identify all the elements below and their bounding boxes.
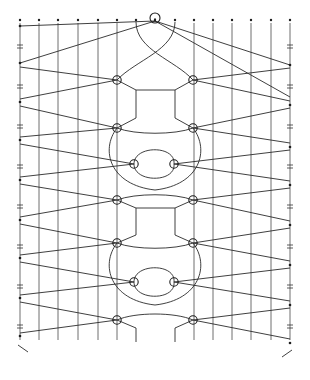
diagonal-thread bbox=[193, 228, 290, 243]
diagonal-thread bbox=[20, 243, 117, 255]
left-edge-pin bbox=[19, 139, 22, 142]
diagonal-thread bbox=[20, 106, 117, 128]
top-pin bbox=[19, 19, 21, 21]
braid-thread bbox=[117, 243, 193, 248]
diagonal-thread bbox=[20, 224, 117, 243]
top-pin bbox=[38, 19, 40, 21]
lace-pattern-diagram bbox=[0, 0, 310, 380]
left-edge-pin bbox=[19, 179, 22, 182]
top-pin bbox=[57, 19, 59, 21]
diagonal-thread bbox=[193, 308, 290, 320]
diagonal-thread bbox=[20, 320, 117, 333]
top-pin bbox=[77, 19, 79, 21]
braid-thread bbox=[117, 314, 193, 320]
top-pin bbox=[97, 19, 99, 21]
right-edge-pin bbox=[289, 342, 292, 345]
left-edge-pin bbox=[19, 297, 22, 300]
top-pin bbox=[135, 19, 137, 21]
top-pin bbox=[231, 19, 233, 21]
diagonal-thread bbox=[193, 320, 290, 339]
braid-thread bbox=[175, 200, 193, 243]
top-pin bbox=[116, 19, 118, 21]
top-pin bbox=[174, 19, 176, 21]
top-pin bbox=[289, 19, 291, 21]
pin-nodes bbox=[113, 13, 197, 324]
braid-thread bbox=[109, 243, 201, 305]
diagonal-thread bbox=[193, 188, 290, 200]
top-pin bbox=[270, 19, 272, 21]
right-edge-pin bbox=[289, 184, 292, 187]
warp-threads bbox=[17, 23, 293, 340]
diagonal-thread bbox=[20, 184, 117, 200]
diagonal-thread bbox=[20, 128, 117, 137]
diagonal-thread bbox=[20, 67, 117, 80]
braid-thread bbox=[117, 195, 193, 200]
corner-mark bbox=[282, 350, 292, 357]
diagonal-thread bbox=[193, 128, 290, 143]
left-edge-pin bbox=[19, 101, 22, 104]
diagonal-thread bbox=[193, 108, 290, 128]
left-edge-pin bbox=[19, 257, 22, 260]
diagonal-thread bbox=[20, 302, 117, 320]
left-edge-pin bbox=[19, 219, 22, 222]
corner-mark bbox=[18, 345, 28, 352]
diagonal-thread bbox=[20, 21, 155, 63]
center-braid-threads bbox=[109, 18, 201, 342]
left-edge-pin bbox=[19, 62, 22, 65]
braid-thread bbox=[117, 200, 136, 243]
diagonal-thread bbox=[20, 200, 117, 217]
diagonal-thread bbox=[155, 21, 290, 65]
left-edge-pin bbox=[19, 335, 22, 338]
right-edge-pin bbox=[289, 264, 292, 267]
diagonal-thread bbox=[193, 200, 290, 221]
diagonal-thread bbox=[20, 80, 117, 99]
diagonal-thread bbox=[193, 243, 290, 261]
braid-thread bbox=[134, 150, 174, 179]
braid-thread bbox=[117, 22, 175, 80]
top-pin bbox=[154, 19, 156, 21]
top-pin bbox=[193, 19, 195, 21]
right-edge-pin bbox=[289, 146, 292, 149]
diagonal-thread bbox=[193, 80, 290, 101]
top-pin bbox=[212, 19, 214, 21]
braid-thread bbox=[117, 80, 136, 128]
diagonal-thread bbox=[155, 21, 290, 97]
pin-holes bbox=[19, 19, 292, 345]
braid-thread bbox=[109, 128, 201, 190]
braid-thread bbox=[117, 128, 193, 133]
braid-thread bbox=[134, 268, 174, 297]
right-edge-pin bbox=[289, 224, 292, 227]
pattern-svg bbox=[0, 0, 310, 380]
right-edge-pin bbox=[289, 64, 292, 67]
right-edge-pin bbox=[289, 104, 292, 107]
top-pin bbox=[250, 19, 252, 21]
right-edge-pin bbox=[289, 304, 292, 307]
left-edge-pin bbox=[19, 25, 22, 28]
braid-thread bbox=[175, 80, 193, 128]
diagonal-thread bbox=[20, 21, 155, 26]
